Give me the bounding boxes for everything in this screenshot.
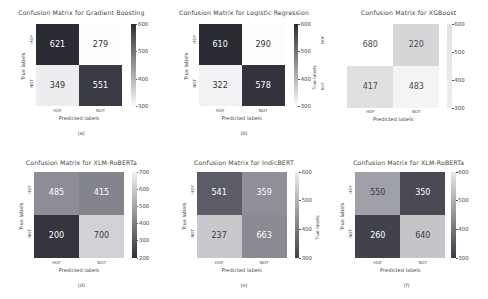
panel-e-matrix: 541 359 237 663 xyxy=(197,172,287,258)
panel-a-cell-tr: 279 xyxy=(79,24,122,65)
panel-d-cell-tl: 485 xyxy=(34,172,79,215)
panel-b-matrix: 610 290 322 578 xyxy=(199,24,285,106)
panel-a-cell-bl: 349 xyxy=(36,65,79,106)
panel-f-caption: (f) xyxy=(325,282,488,288)
panel-e-cell-bl: 237 xyxy=(197,215,242,258)
panel-c-cbtick-400: 400 xyxy=(454,77,464,83)
panel-b-cell-br: 578 xyxy=(242,65,285,106)
panel-a-title: Confusion Matrix for Gradient Boosting xyxy=(0,9,163,16)
panel-c-ytick-not: NOT xyxy=(320,82,325,90)
panel-f-xtick-not: NOT xyxy=(400,260,445,265)
panel-c-cell-tr: 220 xyxy=(393,24,439,66)
panel-d-cell-bl: 200 xyxy=(34,215,79,258)
panel-c: Confusion Matrix for XGBoost 680 220 417… xyxy=(325,0,488,150)
panel-d-cbtick-300: 300 xyxy=(139,237,149,243)
panel-a-cell-br: 551 xyxy=(79,65,122,106)
panel-c-cell-bl: 417 xyxy=(347,66,393,108)
panel-e-cell-br: 663 xyxy=(242,215,287,258)
panel-b-title: Confusion Matrix for Logistic Regression xyxy=(163,9,326,16)
panel-f: Confusion Matrix for XLM-RoBERTa True la… xyxy=(325,150,488,299)
panel-a-ylabel: True labels xyxy=(20,34,26,98)
panel-b-cbtick-400: 400 xyxy=(301,76,311,82)
panel-b: Confusion Matrix for Logistic Regression… xyxy=(163,0,326,150)
panel-f-cbtick-400: 400 xyxy=(458,226,468,232)
panel-f-xtick-hof: HOF xyxy=(355,260,400,265)
panel-a-xtick-hof: HOF xyxy=(36,108,79,113)
panel-d-matrix: 485 415 200 700 xyxy=(34,172,124,258)
panel-a-ytick-not: NOT xyxy=(29,79,34,88)
panel-d-xtick-not: NOT xyxy=(79,260,124,265)
panel-b-colorbar[interactable] xyxy=(294,24,299,106)
panel-f-cbtick-300: 300 xyxy=(458,255,468,261)
panel-e-cbtick-600: 600 xyxy=(302,169,312,175)
panel-e: Confusion Matrix for IndicBERT True labe… xyxy=(163,150,326,299)
panel-f-cbtick-600: 600 xyxy=(458,169,468,175)
panel-b-ytick-not: NOT xyxy=(192,79,197,88)
panel-d-ytick-hof: HOF xyxy=(27,185,32,194)
panel-e-ytick-hof: HOF xyxy=(190,185,195,194)
confusion-matrix-figure: Confusion Matrix for Gradient Boosting T… xyxy=(0,0,488,299)
panel-d-ytick-not: NOT xyxy=(27,229,32,238)
panel-c-xlabel: Predicted labels xyxy=(347,116,439,122)
panel-e-cbtick-500: 500 xyxy=(302,197,312,203)
panel-f-cell-br: 640 xyxy=(400,215,445,258)
panel-b-cell-bl: 322 xyxy=(199,65,242,106)
panel-b-cbtick-500: 500 xyxy=(301,48,311,54)
panel-d-cbtick-200: 200 xyxy=(139,255,149,261)
panel-a-cbtick-400: 400 xyxy=(138,76,148,82)
panel-d-xlabel: Predicted labels xyxy=(34,267,124,273)
panel-f-ytick-not: NOT xyxy=(348,229,353,238)
panel-d-cbtick-400: 400 xyxy=(139,220,149,226)
panel-e-xtick-hof: HOF xyxy=(197,260,242,265)
panel-e-caption: (e) xyxy=(163,282,326,288)
panel-d-cell-tr: 415 xyxy=(79,172,124,215)
panel-b-ylabel: True labels xyxy=(183,34,189,98)
panel-d-cbtick-600: 600 xyxy=(139,186,149,192)
panel-e-ytick-not: NOT xyxy=(190,229,195,238)
panel-d-xtick-hof: HOF xyxy=(34,260,79,265)
panel-d: Confusion Matrix for XLM-RoBERTa True la… xyxy=(0,150,163,299)
panel-a-matrix: 621 279 349 551 xyxy=(36,24,122,106)
panel-a-colorbar[interactable] xyxy=(131,24,136,106)
panel-f-ylabel-main: True labels xyxy=(339,184,345,248)
panel-e-xlabel: Predicted labels xyxy=(197,267,287,273)
panel-f-matrix: 550 350 260 640 xyxy=(355,172,445,258)
panel-c-cbtick-600: 600 xyxy=(454,21,464,27)
panel-c-ytick-hof: HOF xyxy=(320,36,325,44)
panel-a-caption: (a) xyxy=(0,130,163,136)
panel-d-cbtick-500: 500 xyxy=(139,203,149,209)
panel-b-cell-tl: 610 xyxy=(199,24,242,65)
panel-c-ylabel: True labels xyxy=(312,44,317,90)
panel-c-cell-tl: 680 xyxy=(347,24,393,66)
panel-f-cell-bl: 260 xyxy=(355,215,400,258)
panel-d-cbtick-700: 700 xyxy=(139,169,149,175)
panel-a-xlabel: Predicted labels xyxy=(36,115,122,121)
panel-d-colorbar[interactable] xyxy=(132,172,137,258)
panel-b-caption: (b) xyxy=(163,130,326,136)
panel-f-ytick-hof: HOF xyxy=(348,185,353,194)
panel-c-matrix: 680 220 417 483 xyxy=(347,24,439,108)
panel-e-colorbar[interactable] xyxy=(295,172,300,258)
panel-e-cell-tl: 541 xyxy=(197,172,242,215)
panel-e-cbtick-400: 400 xyxy=(302,226,312,232)
panel-c-colorbar[interactable] xyxy=(447,24,452,108)
panel-e-xtick-not: NOT xyxy=(242,260,287,265)
panel-c-title: Confusion Matrix for XGBoost xyxy=(329,9,488,16)
panel-b-cell-tr: 290 xyxy=(242,24,285,65)
panel-f-cell-tl: 550 xyxy=(355,172,400,215)
panel-a: Confusion Matrix for Gradient Boosting T… xyxy=(0,0,163,150)
panel-f-colorbar[interactable] xyxy=(451,172,456,258)
panel-a-cbtick-500: 500 xyxy=(138,48,148,54)
panel-e-title: Confusion Matrix for IndicBERT xyxy=(163,159,326,166)
panel-b-cbtick-600: 600 xyxy=(301,21,311,27)
panel-a-ytick-hof: HOF xyxy=(29,35,34,44)
panel-d-cell-br: 700 xyxy=(79,215,124,258)
panel-f-title: Confusion Matrix for XLM-RoBERTa xyxy=(329,159,488,166)
panel-f-ylabel: True labels xyxy=(315,194,320,240)
panel-b-xlabel: Predicted labels xyxy=(199,115,285,121)
panel-e-ylabel: True labels xyxy=(181,184,187,248)
panel-a-cbtick-600: 600 xyxy=(138,21,148,27)
panel-f-cell-tr: 350 xyxy=(400,172,445,215)
panel-c-xtick-hof: HOF xyxy=(347,109,393,114)
panel-b-xtick-not: NOT xyxy=(242,108,285,113)
